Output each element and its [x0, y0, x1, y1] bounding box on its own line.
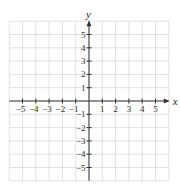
y-tick-label: −5	[76, 163, 86, 173]
x-tick-label: −3	[42, 104, 52, 114]
x-axis-label: x	[172, 95, 178, 107]
y-tick-label: −2	[76, 123, 86, 133]
y-tick-label: 4	[81, 43, 86, 53]
x-tick-label: 2	[113, 104, 118, 114]
x-tick-label: 1	[100, 104, 105, 114]
y-tick-label: −1	[76, 109, 86, 119]
coordinate-plane: −5−4−3−2−112345 54321−1−2−3−4−5 x y	[0, 0, 180, 184]
axes	[9, 20, 170, 181]
x-tick-label: 5	[153, 104, 158, 114]
x-tick-label: 4	[140, 104, 145, 114]
y-tick-label: −3	[76, 136, 86, 146]
x-tick-label: −2	[56, 104, 66, 114]
y-tick-label: 1	[81, 83, 86, 93]
y-tick-label: −4	[76, 149, 86, 159]
x-tick-label: −5	[16, 104, 26, 114]
y-tick-label: 5	[81, 30, 86, 40]
y-axis-label: y	[85, 8, 91, 20]
x-tick-label: −4	[29, 104, 39, 114]
y-tick-label: 3	[81, 56, 86, 66]
y-tick-label: 2	[81, 69, 86, 79]
x-tick-label: 3	[127, 104, 132, 114]
